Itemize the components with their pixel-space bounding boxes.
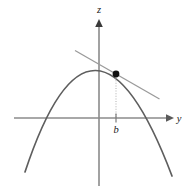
tangency-point-marker (113, 71, 120, 78)
vertical-axis-label: z (96, 4, 101, 15)
vertical-axis-arrow-icon (95, 19, 103, 27)
horizontal-axis-label: y (176, 113, 182, 124)
abscissa-label-b: b (113, 124, 118, 135)
parabola-tangent-figure: z y b (0, 0, 191, 194)
horizontal-axis-arrow-icon (166, 114, 174, 122)
